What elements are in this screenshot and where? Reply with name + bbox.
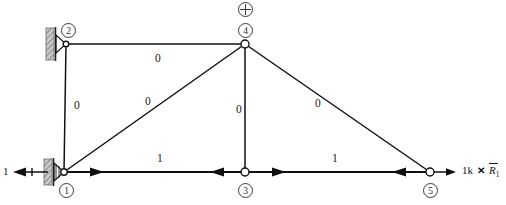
joint-circle-node-5 [426, 168, 434, 176]
multiply-icon: ✕ [477, 165, 485, 176]
origin-crosshair-icon [238, 2, 253, 17]
reaction-magnitude: 1k [462, 164, 473, 176]
wall-hatch-node-2 [46, 28, 54, 60]
reaction-label-right: 1k✕R1 [462, 165, 499, 179]
member-label-2-4: 0 [155, 53, 161, 65]
applied-load-label-left: 1 [3, 166, 9, 177]
node-badge-5-label: 5 [428, 186, 433, 196]
arrowhead-3-5-right [392, 168, 406, 177]
joint-circle-node-2 [63, 41, 69, 47]
node-badge-3: 3 [238, 183, 253, 198]
member-label-1-3: 1 [157, 153, 163, 165]
reaction-symbol-subscript: 1 [496, 170, 500, 179]
member-label-3-4: 0 [236, 104, 242, 116]
arrowhead-1-3-left [90, 168, 104, 177]
joint-circle-node-1 [61, 169, 67, 175]
force-arrow-left-head [13, 168, 26, 177]
node-badge-2-label: 2 [66, 26, 71, 36]
node-badge-5: 5 [423, 183, 438, 198]
members-group [64, 44, 430, 172]
node-badge-2: 2 [61, 23, 76, 38]
reaction-symbol-letter: R [489, 164, 496, 176]
member-label-3-5: 1 [332, 153, 338, 165]
node-badge-4-label: 4 [243, 26, 248, 36]
arrowhead-1-3-right [210, 168, 224, 177]
joint-circle-node-4 [241, 40, 249, 48]
truss-diagram-canvas: 1 2 3 4 5 0 0 0 0 0 1 1 1 1k✕R1 [0, 0, 506, 205]
arrowhead-3-5-left [272, 168, 286, 177]
reaction-symbol: R1 [489, 163, 499, 176]
member-label-4-5: 0 [315, 98, 321, 110]
joint-circle-node-3 [241, 168, 249, 176]
joint-circles-group [61, 40, 434, 176]
member-label-1-4: 0 [145, 96, 151, 108]
node-badge-4: 4 [238, 23, 253, 38]
member-1-2 [64, 44, 66, 172]
node-badge-3-label: 3 [243, 186, 248, 196]
force-arrow-right-head [446, 168, 456, 176]
member-label-1-2: 0 [74, 100, 80, 112]
node-badge-1-label: 1 [64, 186, 69, 196]
node-badge-1: 1 [59, 183, 74, 198]
